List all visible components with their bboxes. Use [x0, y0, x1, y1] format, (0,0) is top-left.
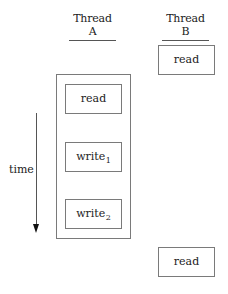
operation-label: write2 — [76, 208, 111, 221]
thread-a-write-1: write1 — [65, 142, 122, 172]
operation-label: read — [174, 54, 199, 66]
column-header-thread-a: Thread A — [69, 12, 116, 41]
operation-subscript: 2 — [106, 213, 111, 222]
thread-b-read-before: read — [158, 45, 215, 75]
thread-a-write-2: write2 — [65, 199, 122, 229]
operation-name: write — [76, 207, 105, 220]
operation-subscript: 1 — [106, 156, 111, 165]
operation-label: write1 — [76, 151, 111, 164]
time-arrow-line — [36, 113, 37, 227]
thread-b-read-after: read — [158, 247, 215, 277]
time-axis-label: time — [9, 164, 34, 176]
thread-a-read: read — [65, 84, 122, 114]
operation-name: write — [76, 150, 105, 163]
arrow-down-icon — [33, 224, 39, 233]
operation-label: read — [81, 93, 106, 105]
operation-label: read — [174, 256, 199, 268]
column-header-thread-b: Thread B — [162, 12, 209, 41]
